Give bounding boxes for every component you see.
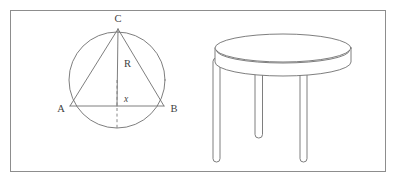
label-distance-x: x [123, 94, 129, 104]
figure-frame-border [11, 11, 386, 172]
figure-root: C R x A B [0, 0, 397, 182]
table-leg-front-left [213, 58, 220, 162]
table-top-surface [215, 34, 351, 62]
geometry-and-table-figure: C R x A B [0, 0, 397, 182]
label-radius-r: R [124, 58, 131, 69]
label-point-c: C [114, 13, 121, 24]
label-point-b: B [170, 103, 177, 114]
label-point-a: A [57, 103, 65, 114]
